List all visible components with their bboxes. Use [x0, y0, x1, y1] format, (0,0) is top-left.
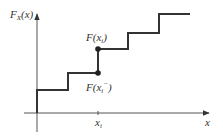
y-axis-label: FX(x) — [9, 8, 34, 22]
cdf-step-diagram: FX(x) F(xi) F(xi−) xi x — [0, 0, 223, 137]
point-upper-dot — [95, 46, 101, 52]
x-axis-label: x — [204, 116, 210, 128]
point-lower-label: F(xi−) — [85, 80, 112, 95]
point-lower-dot — [95, 70, 101, 76]
xi-tick-label: xi — [94, 116, 102, 130]
point-upper-label: F(xi) — [85, 31, 107, 45]
step-function-line — [37, 14, 190, 113]
